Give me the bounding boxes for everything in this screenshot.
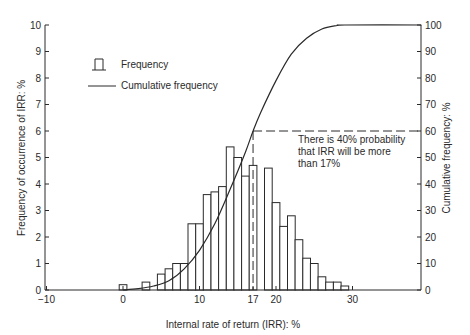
y-left-axis-title: Frequency of occurrence of IRR: % — [16, 80, 27, 236]
y-left-tick-label: 10 — [30, 20, 42, 31]
y-left-tick-label: 8 — [35, 73, 41, 84]
y-right-tick-label: 10 — [425, 258, 437, 269]
y-right-tick-label: 80 — [425, 73, 437, 84]
y-right-tick-label: 60 — [425, 126, 437, 137]
x-tick-label: 30 — [347, 294, 359, 305]
annotation: There is 40% probability that IRR will b… — [298, 134, 405, 169]
y-right-tick-label: 20 — [425, 232, 437, 243]
x-tick-label: 20 — [270, 294, 282, 305]
frequency-bar — [142, 282, 150, 290]
y-left-tick-label: 2 — [35, 232, 41, 243]
irr-chart: 0123456789100102030405060708090100−10010… — [0, 0, 470, 335]
y-right-tick-label: 30 — [425, 205, 437, 216]
y-left-tick-label: 3 — [35, 205, 41, 216]
frequency-bar — [272, 203, 280, 290]
frequency-bar — [303, 258, 311, 290]
y-left-tick-label: 4 — [35, 179, 41, 190]
y-left-tick-label: 6 — [35, 126, 41, 137]
y-left-tick-label: 9 — [35, 46, 41, 57]
y-right-tick-label: 90 — [425, 46, 437, 57]
x-tick-label: 0 — [120, 294, 126, 305]
frequency-bar — [265, 168, 273, 290]
x-tick-label: 10 — [194, 294, 206, 305]
x-axis-title: Internal rate of return (IRR): % — [166, 319, 301, 330]
frequency-bar — [326, 282, 334, 290]
x-tick-label: 17 — [247, 294, 259, 305]
frequency-bar — [288, 216, 296, 290]
annotation-line-3: than 17% — [298, 158, 340, 169]
y-right-tick-label: 0 — [425, 285, 431, 296]
frequency-bar — [226, 147, 234, 290]
y-left-tick-label: 1 — [35, 258, 41, 269]
y-right-axis-title: Cumulative frequency: % — [441, 102, 452, 213]
y-right-tick-label: 70 — [425, 99, 437, 110]
legend-item-frequency: Frequency — [92, 59, 168, 70]
frequency-bar — [341, 286, 349, 290]
frequency-bar — [211, 192, 219, 290]
chart-canvas: 0123456789100102030405060708090100−10010… — [0, 0, 470, 335]
y-right-tick-label: 100 — [425, 20, 442, 31]
frequency-bar — [295, 240, 303, 290]
annotation-line-2: that IRR will be more — [298, 146, 391, 157]
frequency-bar — [318, 277, 326, 290]
frequency-bar — [242, 176, 250, 290]
frequency-bar — [333, 282, 341, 290]
y-right-tick-label: 50 — [425, 152, 437, 163]
frequency-bar — [196, 224, 204, 290]
legend-item-cumulative: Cumulative frequency — [88, 80, 218, 91]
frequency-bar — [280, 226, 288, 290]
y-right-tick-label: 40 — [425, 179, 437, 190]
frequency-bar — [173, 264, 181, 291]
frequency-bar — [157, 274, 165, 290]
y-left-tick-label: 5 — [35, 152, 41, 163]
legend: Frequency Cumulative frequency — [88, 59, 218, 91]
y-left-tick-label: 7 — [35, 99, 41, 110]
frequency-bar — [310, 264, 318, 291]
frequency-bar — [180, 264, 188, 291]
legend-label-cumulative: Cumulative frequency — [121, 80, 218, 91]
x-tick-label: −10 — [38, 294, 55, 305]
bar-symbol-icon — [92, 59, 106, 70]
annotation-line-1: There is 40% probability — [298, 134, 405, 145]
legend-label-frequency: Frequency — [121, 59, 168, 70]
